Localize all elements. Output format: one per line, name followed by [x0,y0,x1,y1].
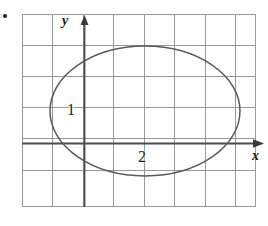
x-axis-label: x [252,149,259,163]
grid-vertical-lines [23,14,256,207]
graph-canvas [0,0,268,226]
grid-horizontal-lines [22,15,256,207]
annotation-label-1: 1 [67,102,75,118]
ellipse-grid-figure: y x 1 2 [0,0,268,226]
y-axis [81,15,89,207]
annotation-label-2: 2 [138,149,146,165]
y-axis-label: y [62,14,68,28]
grid-border [23,15,256,207]
